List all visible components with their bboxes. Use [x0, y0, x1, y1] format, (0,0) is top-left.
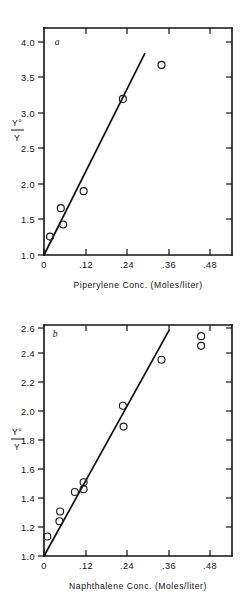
x-tick-label: .12 [79, 561, 93, 571]
x-tick-label: .24 [120, 260, 134, 270]
y-tick-label: 1.4 [21, 494, 35, 504]
y-tick-label: 2.0 [21, 180, 35, 190]
y-tick-labels-a: 1.0 1.5 2.0 2.5 3.0 3.5 4.0 [21, 38, 35, 261]
y-tick-labels-b: 1.0 1.2 1.4 1.6 1.8 2.0 2.2 2.4 2.6 [21, 324, 35, 562]
y-tick-label: 1.6 [21, 465, 35, 475]
data-point-marker [56, 518, 63, 525]
data-point-marker [60, 221, 67, 228]
y-tick-label: 1.0 [21, 251, 35, 261]
y-axis-title-denominator: Y [14, 133, 20, 143]
x-tick-labels-a: 0 .12 .24 .36 .48 [41, 260, 217, 270]
x-tick-label: 0 [41, 561, 47, 571]
y-axis-title-numerator: Y° [12, 118, 22, 128]
data-point-marker [57, 508, 64, 515]
data-point-marker [44, 533, 51, 540]
data-point-marker [158, 61, 165, 68]
y-tick-label: 3.0 [21, 109, 35, 119]
data-point-marker [71, 488, 78, 495]
x-tick-label: .48 [203, 260, 217, 270]
data-point-marker [198, 333, 205, 340]
y-axis-title-denominator: Y [14, 442, 20, 452]
x-tick-label: .36 [162, 260, 176, 270]
y-tick-label: 1.5 [21, 215, 35, 225]
data-points-b [44, 333, 205, 540]
y-tick-label: 2.2 [21, 378, 35, 388]
x-ticks-a [44, 28, 210, 255]
x-tick-label: .48 [203, 561, 217, 571]
x-tick-label: .36 [162, 561, 176, 571]
y-tick-label: 1.8 [21, 436, 35, 446]
data-point-marker [198, 342, 205, 349]
x-tick-label: .24 [120, 561, 134, 571]
data-point-marker [57, 205, 64, 212]
x-tick-labels-b: 0 .12 .24 .36 .48 [41, 561, 217, 571]
y-tick-label: 2.0 [21, 407, 35, 417]
y-tick-label: 2.6 [21, 324, 35, 334]
y-tick-label: 2.5 [21, 144, 35, 154]
data-point-marker [158, 356, 165, 363]
x-ticks-b [44, 325, 210, 556]
data-point-marker [120, 423, 127, 430]
plot-frame-b [44, 325, 232, 556]
chart-panel-b: 0 .12 .24 .36 .48 1.0 1.2 1.4 1.6 1.8 2.… [0, 301, 251, 602]
y-axis-title-a: Y° Y [11, 118, 24, 143]
x-tick-label: 0 [41, 260, 47, 270]
data-point-marker [80, 188, 87, 195]
x-tick-label: .12 [79, 260, 93, 270]
y-tick-label: 1.2 [21, 523, 35, 533]
data-point-marker [119, 402, 126, 409]
y-ticks-b [38, 328, 232, 556]
figure-container: 0 .12 .24 .36 .48 1.0 1.5 2.0 2.5 3.0 3.… [0, 0, 251, 602]
y-tick-label: 4.0 [21, 38, 35, 48]
y-tick-label: 1.0 [21, 552, 35, 562]
y-axis-title-b: Y° Y [11, 427, 24, 452]
x-axis-title-b: Naphthalene Conc. (Moles/liter) [69, 581, 207, 591]
panel-label-a: a [55, 37, 60, 47]
plot-frame-a [44, 28, 232, 255]
y-axis-title-numerator: Y° [12, 427, 22, 437]
y-tick-label: 2.4 [21, 349, 35, 359]
y-tick-label: 3.5 [21, 73, 35, 83]
x-axis-title-a: Piperylene Conc. (Moles/liter) [73, 280, 202, 290]
chart-panel-a: 0 .12 .24 .36 .48 1.0 1.5 2.0 2.5 3.0 3.… [0, 0, 251, 301]
panel-label-b: b [53, 329, 58, 339]
